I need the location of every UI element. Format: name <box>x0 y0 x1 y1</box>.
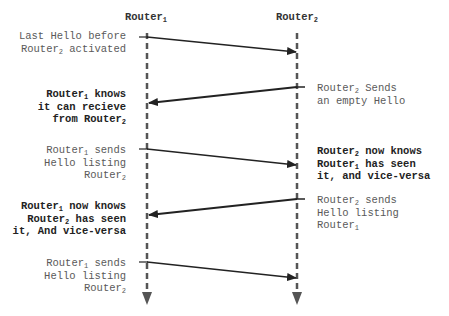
note-line: Router1 knows <box>38 88 126 101</box>
sequence-diagram: Router1 Router2 Last Hello before Router… <box>0 0 449 316</box>
note-router1-now-knows: Router1 now knows Router2 has seen it, A… <box>13 200 126 238</box>
note-router1-knows-receive: Router1 knows it can recieve from Router… <box>38 88 126 126</box>
note-line: Router1 sends <box>44 144 126 157</box>
message-5 <box>139 262 296 278</box>
note-line: Router2 <box>44 169 126 182</box>
note-line: an empty Hello <box>317 95 405 108</box>
message-4 <box>149 199 305 215</box>
note-router1-sends-hello-2: Router1 sends Hello listing Router2 <box>44 257 126 295</box>
lifeline-arrowhead-icon <box>292 292 302 305</box>
note-router1-sends-hello: Router1 sends Hello listing Router2 <box>44 144 126 182</box>
note-router2-sends-empty: Router2 Sends an empty Hello <box>317 82 405 107</box>
note-line: from Router2 <box>38 113 126 126</box>
lifeline-router2 <box>292 33 302 305</box>
message-3 <box>139 149 296 165</box>
note-line: Router1 now knows <box>13 200 126 213</box>
participant-subscript: 2 <box>314 16 318 24</box>
note-line: Hello listing <box>44 270 126 283</box>
message-2 <box>149 87 305 103</box>
participant-name: Router <box>125 11 163 23</box>
note-line: Hello listing <box>44 157 126 170</box>
note-last-hello: Last Hello before Router2 activated <box>19 30 126 55</box>
note-router2-sends-hello: Router2 sends Hello listing Router1 <box>317 194 399 232</box>
participant-subscript: 1 <box>163 16 167 24</box>
note-line: Router1 sends <box>44 257 126 270</box>
note-line: Router2 sends <box>317 194 399 207</box>
note-line: Router1 has seen <box>317 158 430 171</box>
note-line: Router2 activated <box>19 43 126 56</box>
lifeline-arrowhead-icon <box>142 292 152 305</box>
participant-name: Router <box>276 11 314 23</box>
note-line: Router1 <box>317 219 399 232</box>
note-line: Router2 <box>44 282 126 295</box>
note-line: Last Hello before <box>19 30 126 43</box>
note-line: Router2 Sends <box>317 82 405 95</box>
note-line: Router2 has seen <box>13 213 126 226</box>
note-router2-now-knows: Router2 now knows Router1 has seen it, a… <box>317 145 430 183</box>
note-line: it, And vice-versa <box>13 225 126 238</box>
note-line: Router2 now knows <box>317 145 430 158</box>
participant-router1-header: Router1 <box>125 11 167 23</box>
lifeline-router1 <box>142 33 152 305</box>
participant-router2-header: Router2 <box>276 11 318 23</box>
note-line: it can recieve <box>38 101 126 114</box>
note-line: Hello listing <box>317 207 399 220</box>
note-line: it, and vice-versa <box>317 170 430 183</box>
message-1 <box>139 37 296 52</box>
